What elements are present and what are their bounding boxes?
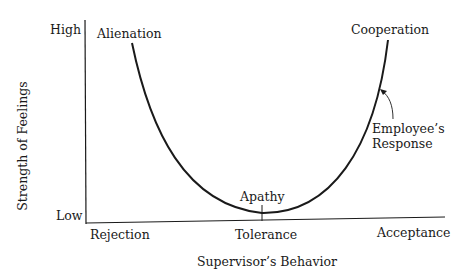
x-axis-title: Supervisor’s Behavior: [197, 256, 337, 269]
employee-response-curve: [132, 40, 388, 213]
annotation-line1: Employee’s: [372, 123, 445, 136]
x-tick-tolerance: Tolerance: [235, 229, 297, 242]
cooperation-label: Cooperation: [351, 24, 429, 37]
x-tick-acceptance: Acceptance: [377, 227, 450, 240]
apathy-label: Apathy: [240, 191, 285, 204]
y-axis-title: Strength of Feelings: [15, 81, 30, 210]
x-axis-line: [86, 217, 445, 223]
x-tick-rejection: Rejection: [90, 229, 150, 242]
y-axis-line: [85, 20, 86, 224]
alienation-label: Alienation: [97, 28, 162, 41]
y-axis-high-label: High: [50, 24, 81, 37]
annotation-line2: Response: [372, 138, 433, 151]
annotation-arrow-line: [382, 91, 393, 119]
y-axis-low-label: Low: [56, 210, 83, 223]
